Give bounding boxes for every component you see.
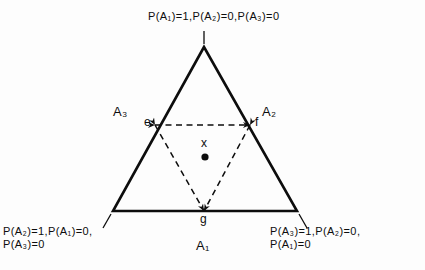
outer-triangle-path — [113, 47, 297, 211]
figure-canvas: P(A₁)=1,P(A₂)=0,P(A₃)=0 P(A₂)=1,P(A₁)=0,… — [0, 0, 425, 270]
bottom-left-line2: P(A₃)=0 — [3, 238, 93, 251]
bottom-left-line1: P(A₂)=1,P(A₁)=0, — [3, 225, 93, 238]
bottom-right-line1: P(A₃)=1,P(A₂)=0, — [270, 225, 360, 238]
outer-triangle — [103, 31, 307, 228]
apex-probability-label: P(A₁)=1,P(A₂)=0,P(A₃)=0 — [148, 10, 279, 23]
vertex-label-a2: A₂ — [262, 104, 276, 119]
vertex-label-a3: A₃ — [113, 104, 128, 119]
point-label-f: f — [255, 115, 258, 129]
bottom-left-probability-label: P(A₂)=1,P(A₁)=0, P(A₃)=0 — [3, 225, 93, 251]
bottom-right-probability-label: P(A₃)=1,P(A₂)=0, P(A₁)=0 — [270, 225, 360, 251]
apex-label-text: P(A₁)=1,P(A₂)=0,P(A₃)=0 — [148, 10, 279, 22]
point-label-x: x — [201, 136, 207, 150]
point-label-g: g — [200, 212, 207, 226]
segment-e-g — [155, 125, 204, 211]
point-label-e: e — [144, 115, 151, 129]
segment-f-g — [204, 125, 250, 211]
bottom-right-line2: P(A₁)=0 — [270, 238, 360, 251]
bottom-left-tick — [103, 214, 111, 228]
data-point-x-marker — [201, 153, 208, 160]
vertex-label-a1: A₁ — [196, 238, 210, 253]
